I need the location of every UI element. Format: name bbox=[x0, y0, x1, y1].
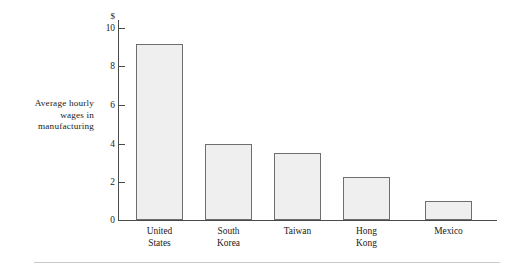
x-axis-label-united-states: United States bbox=[126, 226, 193, 250]
x-axis-line bbox=[118, 220, 497, 221]
x-axis-label-line: Taiwan bbox=[264, 226, 331, 238]
y-tick-label-4: 4 bbox=[96, 140, 115, 149]
x-axis-label-line: South bbox=[195, 226, 262, 238]
x-axis-label-south-korea: South Korea bbox=[195, 226, 262, 250]
y-axis-title-line-3: manufacturing bbox=[8, 121, 94, 133]
y-tick-label-6: 6 bbox=[96, 101, 115, 110]
bar-hong-kong bbox=[343, 177, 390, 220]
y-tick-mark-2 bbox=[118, 182, 125, 183]
y-tick-label-10: 10 bbox=[96, 24, 115, 33]
y-tick-mark-4 bbox=[118, 144, 125, 145]
y-tick-label-8: 8 bbox=[96, 62, 115, 71]
x-axis-label-hong-kong: Hong Kong bbox=[333, 226, 400, 250]
x-axis-label-mexico: Mexico bbox=[415, 226, 482, 238]
y-tick-mark-8 bbox=[118, 66, 125, 67]
bar-united-states bbox=[136, 44, 183, 220]
y-axis-title-line-2: wages in bbox=[8, 110, 94, 122]
bar-mexico bbox=[425, 201, 472, 220]
y-tick-label-2: 2 bbox=[96, 178, 115, 187]
bar-taiwan bbox=[274, 153, 321, 220]
y-tick-mark-10 bbox=[118, 28, 125, 29]
bar-chart-figure: Average hourly wages in manufacturing $ … bbox=[0, 0, 511, 269]
bar-south-korea bbox=[205, 144, 252, 220]
bottom-divider bbox=[34, 262, 500, 263]
x-axis-label-line: Korea bbox=[195, 238, 262, 250]
y-tick-mark-6 bbox=[118, 105, 125, 106]
y-axis-line bbox=[118, 20, 119, 220]
x-axis-label-line: Kong bbox=[333, 238, 400, 250]
currency-symbol: $ bbox=[103, 12, 115, 21]
y-axis-title: Average hourly wages in manufacturing bbox=[8, 98, 94, 133]
x-axis-label-line: Mexico bbox=[415, 226, 482, 238]
y-tick-label-0: 0 bbox=[96, 216, 115, 225]
x-axis-label-line: Hong bbox=[333, 226, 400, 238]
x-axis-label-line: States bbox=[126, 238, 193, 250]
y-axis-title-line-1: Average hourly bbox=[8, 98, 94, 110]
x-axis-label-taiwan: Taiwan bbox=[264, 226, 331, 238]
x-axis-label-line: United bbox=[126, 226, 193, 238]
